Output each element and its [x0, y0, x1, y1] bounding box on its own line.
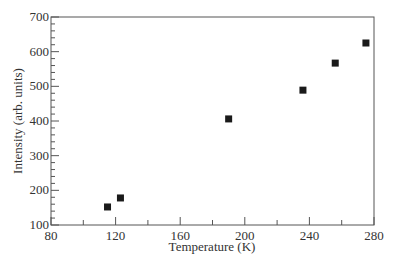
y-tick-label: 700	[30, 9, 50, 24]
y-tick-label: 400	[30, 113, 50, 128]
data-point-marker	[117, 194, 124, 201]
y-tick-label: 200	[30, 182, 50, 197]
data-point-marker	[332, 60, 339, 67]
axis-ticks	[51, 17, 374, 225]
y-tick-labels: 100200300400500600700	[30, 9, 50, 232]
y-tick-label: 500	[30, 78, 50, 93]
x-axis-title: Temperature (K)	[169, 239, 256, 254]
data-point-marker	[362, 40, 369, 47]
data-point-marker	[225, 115, 232, 122]
scatter-chart: 80120160200240280 100200300400500600700 …	[0, 0, 393, 265]
data-point-marker	[104, 203, 111, 210]
data-point-marker	[299, 87, 306, 94]
y-axis-title: Intensity (arb. units)	[10, 68, 25, 174]
x-tick-label: 240	[300, 228, 320, 243]
plot-frame	[51, 17, 374, 225]
data-points	[104, 40, 369, 211]
y-tick-label: 600	[30, 44, 50, 59]
x-tick-label: 120	[106, 228, 126, 243]
y-tick-label: 100	[30, 217, 50, 232]
y-tick-label: 300	[30, 148, 50, 163]
x-tick-label: 280	[364, 228, 384, 243]
